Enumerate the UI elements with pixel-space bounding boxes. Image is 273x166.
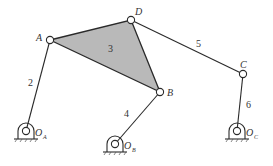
label-b: B (167, 87, 173, 98)
label-link-4: 4 (124, 108, 129, 119)
label-link-6: 6 (246, 99, 251, 110)
label-oc: O (246, 127, 253, 138)
label-oc-sub: C (254, 134, 259, 140)
label-ob-sub: B (132, 147, 136, 153)
link-6 (237, 74, 243, 131)
label-c: C (240, 59, 247, 70)
label-a: A (35, 32, 43, 43)
label-link-2: 2 (28, 77, 33, 88)
joint-c (239, 70, 246, 77)
joint-a (46, 36, 53, 43)
label-oa: O (35, 127, 42, 138)
label-link-5: 5 (196, 38, 201, 49)
label-d: D (134, 6, 143, 17)
label-oa-sub: A (42, 134, 47, 140)
joint-d (127, 16, 134, 23)
link-3-ternary (50, 20, 160, 92)
label-ob: O (124, 140, 131, 151)
joint-b (156, 88, 163, 95)
linkage-diagram: A D B C 2 3 4 5 6 O A O B O C (0, 0, 273, 166)
label-link-3: 3 (108, 43, 113, 54)
link-4 (115, 92, 160, 144)
